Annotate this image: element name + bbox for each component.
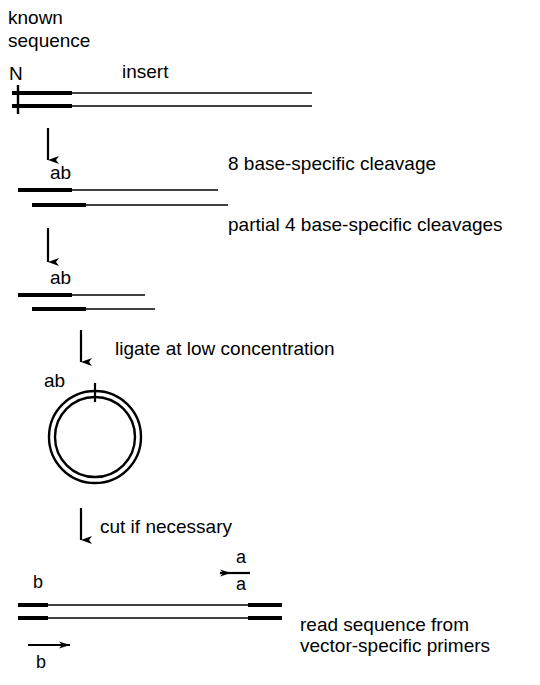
stage1-duplex	[12, 85, 312, 114]
plasmid-inner-ring	[55, 397, 135, 477]
diagram-vector-layer	[0, 0, 540, 685]
sequencing-strategy-diagram: known sequence N insert 8 base-specific …	[0, 0, 540, 685]
stage3-duplex	[18, 295, 155, 309]
plasmid-outer-ring	[49, 391, 141, 483]
stage2-duplex	[18, 190, 228, 205]
plasmid-circle-icon	[49, 383, 141, 483]
stage5-duplex	[18, 605, 282, 618]
